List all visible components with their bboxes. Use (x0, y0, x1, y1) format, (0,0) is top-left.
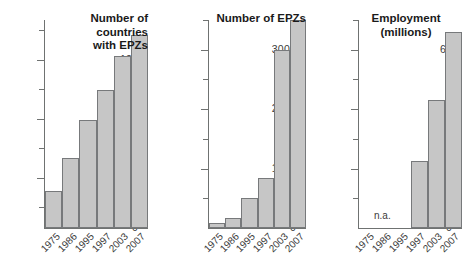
y-tick-major (351, 169, 358, 170)
panel-number-of-countries: 120 80 40 0 1975 1986 1995 1997 2003 200… (0, 0, 158, 266)
y-tick-major (201, 109, 208, 110)
y-tick-minor (39, 89, 44, 90)
plot-area-3: 60 40 20 0 n.a. 1975 1986 1995 1997 2003 (358, 20, 462, 228)
three-panel-bar-chart-figure: 120 80 40 0 1975 1986 1995 1997 2003 200… (0, 0, 476, 266)
x-tick-labels-3: 1975 1986 1995 1997 2003 2007 (359, 229, 462, 230)
bar-1986[interactable] (225, 218, 241, 229)
bar-1997[interactable] (258, 178, 274, 228)
bar-slot-1997 (258, 20, 274, 228)
bar-1995[interactable] (241, 198, 257, 228)
x-tick-slot: 1986 (225, 229, 241, 230)
x-tick-slot: 1975 (45, 229, 62, 230)
x-tick-slot: 2003 (274, 229, 290, 230)
x-tick-labels-2: 1975 1986 1995 1997 2003 2007 (209, 229, 306, 230)
y-tick-minor (39, 148, 44, 149)
x-tick-slot: 1997 (258, 229, 274, 230)
y-tick-minor (203, 79, 208, 80)
bar-2007[interactable] (290, 20, 306, 228)
y-tick-minor (39, 207, 44, 208)
bar-2003[interactable] (114, 56, 131, 228)
x-tick-slot: 1995 (241, 229, 257, 230)
x-tick-slot: 1995 (79, 229, 96, 230)
x-tick-slot: 2003 (114, 229, 131, 230)
panel-title-3: Employment (millions) (354, 12, 458, 39)
bar-slot-2007 (445, 20, 462, 228)
x-tick-slot: 1975 (209, 229, 225, 230)
x-tick-slot: 2007 (131, 229, 148, 230)
y-tick-minor (203, 139, 208, 140)
bar-slot-2003 (428, 20, 445, 228)
x-tick-slot: 1997 (411, 229, 428, 230)
bar-slot-1975 (359, 20, 376, 228)
bar-1986[interactable] (62, 158, 79, 228)
bar-2007[interactable] (445, 32, 462, 228)
x-tick-slot: 1995 (393, 229, 410, 230)
y-tick-major (37, 60, 44, 61)
x-tick-slot: 2007 (290, 229, 306, 230)
y-tick-major (37, 178, 44, 179)
panel-title-2: Number of EPZs (202, 12, 306, 26)
bar-slot-1986 (376, 20, 393, 228)
na-annotation: n.a. (374, 210, 391, 221)
bar-slot-1975 (209, 20, 225, 228)
bar-2003[interactable] (274, 50, 290, 228)
bar-1997[interactable] (411, 161, 428, 228)
panel-title-1: Number of countries with EPZs (40, 12, 148, 53)
bar-1997[interactable] (97, 90, 114, 228)
bar-slot-2003 (274, 20, 290, 228)
y-tick-major (37, 119, 44, 120)
plot-area-2: 3000 2000 1000 0 1975 1986 1995 1997 200… (208, 20, 306, 228)
bar-slot-1986 (225, 20, 241, 228)
bar-1975[interactable] (45, 191, 62, 228)
y-tick-major (201, 50, 208, 51)
bar-slot-1995 (241, 20, 257, 228)
x-tick-slot: 2003 (428, 229, 445, 230)
y-tick-minor (353, 198, 358, 199)
panel-number-of-epzs: 3000 2000 1000 0 1975 1986 1995 1997 200… (158, 0, 316, 266)
y-tick-major (351, 109, 358, 110)
bar-slot-1997 (411, 20, 428, 228)
y-tick-minor (353, 79, 358, 80)
y-tick-major (201, 169, 208, 170)
bar-2007[interactable] (131, 35, 148, 228)
x-tick-slot: 2007 (445, 229, 462, 230)
x-tick-slot: 1975 (359, 229, 376, 230)
y-tick-minor (203, 198, 208, 199)
bar-2003[interactable] (428, 100, 445, 228)
x-tick-slot: 1986 (62, 229, 79, 230)
panel-employment: 60 40 20 0 n.a. 1975 1986 1995 1997 2003 (316, 0, 476, 266)
x-tick-labels-1: 1975 1986 1995 1997 2003 2007 (45, 229, 148, 230)
bar-1995[interactable] (79, 120, 96, 229)
bar-group-2 (209, 20, 306, 228)
bar-slot-1995 (393, 20, 410, 228)
x-tick-slot: 1997 (97, 229, 114, 230)
y-tick-minor (353, 139, 358, 140)
bar-group-3 (359, 20, 462, 228)
y-tick-major (351, 50, 358, 51)
bar-slot-2007 (290, 20, 306, 228)
x-tick-slot: 1986 (376, 229, 393, 230)
